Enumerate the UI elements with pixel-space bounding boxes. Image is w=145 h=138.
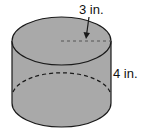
radius-label: 3 in. [79, 3, 104, 16]
height-label: 4 in. [113, 67, 138, 80]
